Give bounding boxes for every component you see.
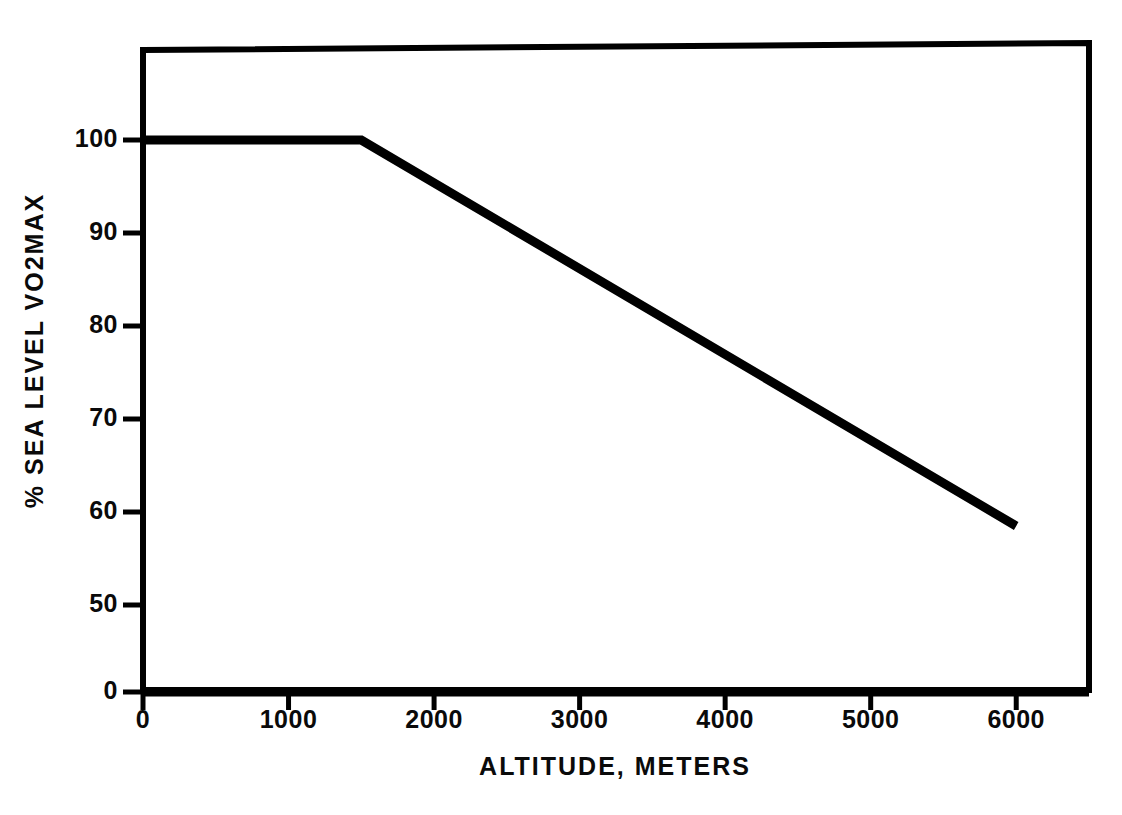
- x-axis-title: ALTITUDE, METERS: [140, 752, 1090, 781]
- x-axis-tick-label: 3000: [551, 707, 609, 732]
- x-axis-tick-label: 6000: [987, 707, 1045, 732]
- x-axis-tick-label: 4000: [696, 707, 754, 732]
- x-axis-tick-labels: 0100020003000400050006000: [0, 0, 1122, 815]
- x-axis-tick-label: 1000: [260, 707, 318, 732]
- x-axis-tick-label: 2000: [405, 707, 463, 732]
- chart-figure: % SEA LEVEL VO2MAX 05060708090100 010002…: [0, 0, 1122, 815]
- x-axis-tick-label: 5000: [842, 707, 900, 732]
- x-axis-tick-label: 0: [136, 707, 150, 732]
